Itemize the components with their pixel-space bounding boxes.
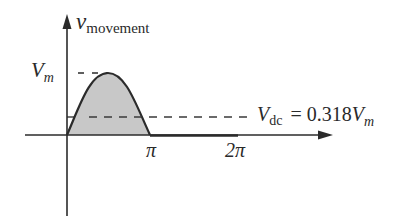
x-tick-2pi: 2π — [225, 139, 245, 162]
peak-label: Vm — [31, 58, 54, 83]
x-tick-pi: π — [146, 139, 156, 162]
y-axis-label-sub: movement — [86, 20, 149, 36]
vdc-label-sub: dc — [269, 113, 282, 128]
vdc-tail-sub: m — [364, 114, 374, 129]
vdc-label: Vdc = 0.318Vm — [257, 103, 374, 126]
y-axis-label-main: v — [76, 9, 86, 34]
peak-label-main: V — [31, 58, 44, 82]
vdc-tail-main: V — [352, 103, 364, 125]
y-axis-arrow-icon — [63, 14, 72, 29]
x-axis-arrow-icon — [318, 131, 333, 140]
vdc-label-main: V — [257, 103, 269, 125]
y-axis-label: vmovement — [76, 9, 150, 35]
vdc-equals-value: = 0.318 — [290, 103, 351, 125]
peak-label-sub: m — [44, 70, 54, 85]
